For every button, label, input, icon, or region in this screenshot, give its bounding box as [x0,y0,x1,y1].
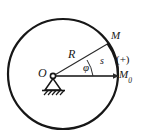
label-M0-base: M [119,68,128,80]
label-point-M: M [111,30,120,41]
label-positive-direction: (+) [116,54,130,65]
label-origin-O: O [38,67,47,79]
label-arc-length-s: s [100,56,104,66]
label-reference-point-M0: M0 [119,69,132,83]
support-triangle [45,79,61,91]
label-M0-subscript: 0 [128,76,132,85]
label-angle-phi: φ [83,62,89,73]
disc-circle [8,19,118,129]
label-radius-R: R [68,48,75,60]
mechanics-figure: O R φ s M (+) M0 [0,0,142,140]
